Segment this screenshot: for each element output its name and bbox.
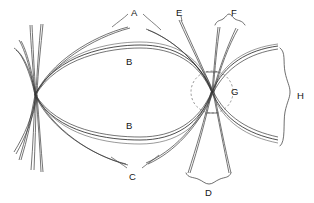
label-c: C <box>129 172 136 182</box>
bundle-h-upper <box>212 44 278 93</box>
label-b-upper: B <box>126 57 132 67</box>
brace-h <box>280 48 290 146</box>
label-d: D <box>205 188 212 198</box>
label-f: F <box>231 8 237 18</box>
label-g: G <box>231 87 238 97</box>
ray-diagram <box>0 0 314 203</box>
brace-f <box>215 14 245 25</box>
diagram-canvas: A B B C D E F G H <box>0 0 314 203</box>
leader-line-c <box>111 155 159 168</box>
label-e: E <box>176 8 182 18</box>
label-h: H <box>297 91 304 101</box>
envelope-a-curves <box>35 27 213 95</box>
brace-d <box>186 173 231 184</box>
envelope-c-curves <box>35 92 213 165</box>
left-outgoing-fan-down <box>14 95 43 172</box>
left-incoming-fan <box>14 24 43 95</box>
bundle-b-upper <box>35 42 213 96</box>
bundle-h-lower <box>212 91 278 143</box>
label-a: A <box>131 8 137 18</box>
bundle-b-lower <box>35 91 213 144</box>
label-b-lower: B <box>126 121 132 131</box>
